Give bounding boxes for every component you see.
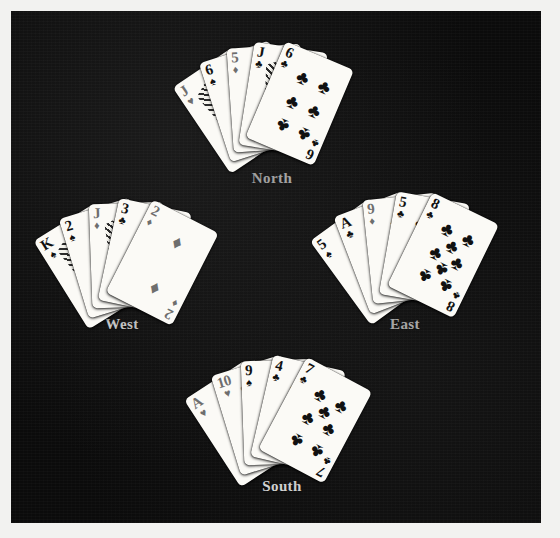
card-suit-club-icon: ♣ [305,100,324,122]
card-pip-group: ♣♣♣♣♣♣ [265,59,342,154]
card-suit-diamond-icon: ♦ [145,216,155,228]
card-table-scene: J♥J♥6♠6♠♠♠♠♠♠♠5♦5♦♦♦♦♦♦J♣J♣6♣6♣♣♣♣♣♣♣Nor… [11,11,541,523]
card-corner-top: 3♣ [118,201,130,227]
card-corner-top: K♠ [38,235,61,262]
card-suit-heart-icon: ♥ [223,387,232,399]
card-suit-club-icon: ♣ [294,124,313,146]
card-suit-diamond-icon: ♦ [232,64,238,75]
card-suit-diamond-icon: ♦ [145,278,162,299]
card-suit-diamond-icon: ♦ [169,232,186,253]
card-suit-club-icon: ♣ [307,441,327,464]
card-suit-club-icon: ♣ [118,214,127,226]
card-suit-spade-icon: ♠ [208,75,217,87]
card-suit-heart-icon: ♥ [185,95,197,108]
card-suit-heart-icon: ♥ [198,407,209,420]
card-suit-spade-icon: ♠ [68,231,77,243]
card-suit-club-icon: ♣ [298,373,310,386]
card-corner-top: 5♦ [231,50,240,75]
card-suit-club-icon: ♣ [279,58,290,71]
card-corner-top: A♣ [338,214,357,241]
card-suit-diamond-icon: ♦ [94,220,100,231]
card-suit-club-icon: ♣ [273,115,292,137]
hand-label-north: North [252,170,292,187]
card-corner-top: J♥ [177,83,197,108]
card-suit-club-icon: ♣ [424,208,435,221]
hand-label-east: East [390,316,420,333]
card-suit-club-icon: ♣ [283,91,302,113]
card-suit-club-icon: ♣ [298,406,318,429]
card-corner-top: 2♠ [63,218,77,244]
card-suit-club-icon: ♣ [254,58,263,70]
card-pip-group: ♦♦ [125,218,206,313]
card-pip-group: ♣♣♣♣♣♣♣♣ [407,210,487,305]
card-corner-top: J♣ [254,44,265,70]
card-pip-group: ♣♣♣♣♣♣♣ [278,376,360,471]
card-suit-club-icon: ♣ [396,208,405,220]
card-corner-top: 5♣ [396,194,407,220]
card-suit-spade-icon: ♠ [323,248,334,260]
card-suit-diamond-icon: ♦ [369,215,376,227]
card-suit-club-icon: ♣ [344,228,355,241]
card-corner-top: 4♣ [271,358,284,384]
card-suit-club-icon: ♣ [286,430,306,453]
card-suit-club-icon: ♣ [271,371,281,383]
card-corner-top: 6♠ [203,62,217,88]
card-suit-club-icon: ♣ [415,265,435,288]
card-suit-spade-icon: ♠ [48,248,59,260]
card-corner-top: J♦ [93,206,101,231]
hand-label-south: South [262,478,302,495]
hand-label-west: West [105,316,138,333]
card-suit-club-icon: ♣ [315,76,334,98]
card-corner-top: 9♠ [245,363,253,388]
card-suit-club-icon: ♣ [293,66,312,88]
card-suit-spade-icon: ♠ [246,377,252,388]
card-corner-top: 9♦ [367,201,377,227]
